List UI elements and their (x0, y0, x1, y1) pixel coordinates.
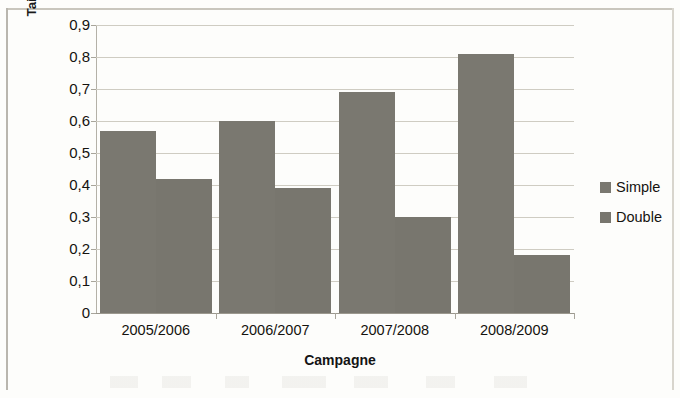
y-tick-label: 0,1 (48, 273, 90, 288)
y-tickmark (91, 89, 96, 90)
chart-legend: SimpleDouble (600, 172, 662, 232)
x-tick-label: 2006/2007 (216, 322, 336, 338)
figure-frame-right (672, 8, 674, 390)
gridline (96, 25, 574, 26)
x-tickmark (455, 313, 456, 319)
chart-figure: Taille de la portée à la naissance 0,90,… (0, 0, 680, 398)
y-tickmark (91, 313, 96, 314)
x-axis-title: Campagne (0, 352, 680, 368)
bar-double-3 (514, 255, 570, 313)
plot-area (96, 25, 574, 313)
y-tickmark (91, 121, 96, 122)
x-tickmark (335, 313, 336, 319)
x-tick-label: 2005/2006 (96, 322, 216, 338)
scan-artifact (100, 376, 580, 388)
figure-frame-left (6, 8, 8, 390)
y-tickmark (91, 57, 96, 58)
bar-double-1 (275, 188, 331, 313)
x-tick-label: 2008/2009 (455, 322, 575, 338)
legend-swatch-icon (600, 182, 611, 193)
y-tick-label: 0,4 (48, 177, 90, 192)
y-tickmark (91, 153, 96, 154)
y-tickmark (91, 217, 96, 218)
y-tick-label: 0,2 (48, 241, 90, 256)
y-tick-label: 0,9 (48, 17, 90, 32)
x-tickmark (574, 313, 575, 319)
y-tickmark (91, 281, 96, 282)
y-tick-label: 0 (48, 305, 90, 320)
y-tick-label: 0,5 (48, 145, 90, 160)
y-axis-line (96, 25, 97, 314)
bar-simple-1 (219, 121, 275, 313)
bar-simple-2 (339, 92, 395, 313)
bar-simple-0 (100, 131, 156, 313)
y-tick-label: 0,8 (48, 49, 90, 64)
bar-double-2 (395, 217, 451, 313)
y-tick-label: 0,3 (48, 209, 90, 224)
bar-simple-3 (458, 54, 514, 313)
legend-swatch-icon (600, 212, 611, 223)
y-tickmark (91, 185, 96, 186)
y-tick-label: 0,6 (48, 113, 90, 128)
legend-item-simple[interactable]: Simple (600, 172, 662, 202)
legend-label: Double (616, 209, 662, 225)
y-axis-title: Taille de la portée à la naissance (20, 0, 44, 54)
y-tickmark (91, 25, 96, 26)
y-axis-tick-labels: 0,90,80,70,60,50,40,30,20,10 (48, 0, 90, 398)
y-tick-label: 0,7 (48, 81, 90, 96)
legend-label: Simple (616, 179, 660, 195)
figure-frame-top (6, 8, 674, 10)
bar-double-0 (156, 179, 212, 313)
x-tick-label: 2007/2008 (335, 322, 455, 338)
legend-item-double[interactable]: Double (600, 202, 662, 232)
x-tickmark (216, 313, 217, 319)
y-tickmark (91, 249, 96, 250)
